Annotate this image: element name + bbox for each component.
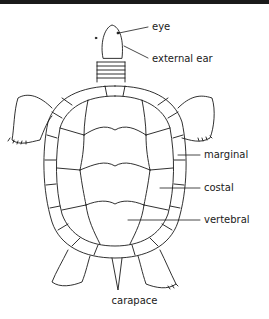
right-hind-limb [138, 250, 176, 288]
label-vertebral: vertebral [204, 214, 250, 226]
eye-dot-left [95, 37, 97, 39]
label-costal: costal [204, 182, 234, 194]
carapace-inner [56, 96, 173, 246]
marginal-divisions [45, 98, 185, 255]
label-eye: eye [152, 21, 170, 33]
vertebral-scutes [80, 100, 150, 244]
external-ear-leader [124, 46, 148, 58]
label-external-ear: external ear [152, 53, 213, 65]
neck [97, 62, 125, 82]
carapace-outer [44, 86, 186, 258]
left-hind-limb [52, 250, 90, 286]
right-front-limb [178, 96, 214, 141]
right-hind-claws [168, 284, 178, 289]
label-marginal: marginal [204, 149, 248, 161]
tail [112, 258, 122, 290]
eye-leader [119, 27, 148, 33]
head [102, 25, 123, 58]
figure-caption: carapace [0, 295, 269, 306]
costal-divisions [57, 128, 173, 210]
